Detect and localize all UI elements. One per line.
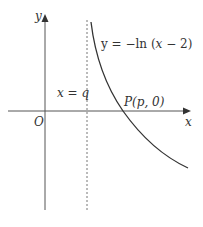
graph-diagram: y x O y = −ln (x − 2) x = q P(p, 0) [0,0,203,227]
y-axis-arrow-icon [42,14,49,22]
point-label: P(p, 0) [123,95,165,109]
y-axis-label: y [34,9,42,23]
x-axis-label: x [185,115,192,129]
x-axis-arrow-icon [183,108,191,115]
curve-equation-label: y = −ln (x − 2) [100,37,192,51]
asymptote-label: x = q [57,86,89,100]
origin-label: O [34,115,44,129]
